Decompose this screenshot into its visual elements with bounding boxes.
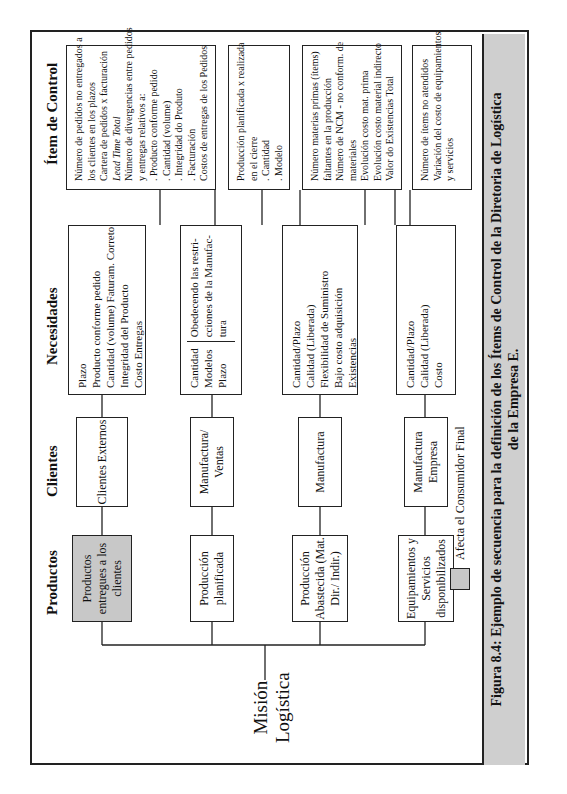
- need-item: Flexibilidad de Suministro: [317, 232, 331, 388]
- necesidades-box-2: Cantidad Modelos Plazo Obedecendo las re…: [180, 225, 242, 395]
- control-item: Producción planificada x realizada: [235, 52, 248, 181]
- need-item: Costo: [431, 232, 445, 388]
- producto-box-3: Producción Abastecida (Mat. Dir./ Indir.…: [292, 535, 348, 622]
- control-item: los clientes en los plazos: [86, 52, 99, 181]
- producto-box-2: Producción planificada: [190, 535, 234, 622]
- control-item: Evolución costo mat. prima: [359, 52, 372, 181]
- control-item: en el cierre: [248, 52, 261, 181]
- need-item: Existencias: [345, 232, 359, 388]
- control-item: y servicios: [444, 52, 457, 181]
- control-item: Evolución costo material indirecto: [372, 52, 385, 181]
- control-item: Número materias primas (ítems): [309, 52, 322, 181]
- need-item: Bajo costo adquisición: [331, 232, 345, 388]
- control-box-4: Número de ítems no atendidos Variación d…: [412, 45, 472, 190]
- need-item: Cantidad/Plazo: [289, 232, 303, 388]
- need-item: Calidad (Liberada): [303, 232, 317, 388]
- control-box-2: Producción planificada x realizada en el…: [228, 45, 290, 190]
- control-item: Costos de entregas de los Pedidos: [198, 52, 211, 181]
- producto-box-4: Equipamientos y Servicios disponibilizad…: [398, 535, 454, 622]
- producto-box-1: Productos entregues a los clientes: [72, 535, 132, 622]
- legend-label: Afecta el Consumidor Final: [453, 426, 468, 560]
- figure-page: Productos Clientes Necesidades Ítem de C…: [30, 32, 527, 765]
- control-item: y entregas relativos a:: [136, 52, 149, 181]
- control-item: . Cantidad (volume): [161, 52, 174, 181]
- control-item: . Facturación: [186, 52, 199, 181]
- legend-swatch: [450, 568, 470, 590]
- control-item: Número de divergencias entre pedidos: [123, 52, 136, 181]
- need-item: Integridad del Producto: [117, 232, 131, 388]
- control-item: . Cantidad: [260, 52, 273, 181]
- control-item: Número de pedidos no entregados a: [73, 52, 86, 181]
- cliente-box-3: Manufactura: [298, 417, 342, 507]
- necesidades-box-4: Cantidad/Plazo Calidad (Liberada) Costo: [396, 225, 456, 395]
- control-item: faltantes en la producción: [322, 52, 335, 181]
- legend: Afecta el Consumidor Final: [450, 426, 470, 590]
- control-item: Lead Time Total: [111, 52, 124, 181]
- control-box-1: Número de pedidos no entregados a los cl…: [66, 45, 216, 190]
- cliente-box-4: Manufactura Empresa: [404, 417, 448, 507]
- need-item: Costo Entregas: [131, 232, 145, 388]
- control-item: materiales: [347, 52, 360, 181]
- need-item: Cantidad: [187, 348, 201, 388]
- need-item: Calidad (Liberada): [417, 232, 431, 388]
- need-note: tura: [215, 235, 229, 337]
- need-note: cciones de la Manufac-: [201, 235, 215, 337]
- caption-line2: de la Empresa E.: [505, 34, 522, 765]
- need-note: Obedecendo las restri-: [187, 235, 201, 337]
- control-item: Variación del costo de equipamientos: [432, 52, 445, 181]
- need-item: Modelos: [201, 348, 215, 388]
- necesidades-box-3: Cantidad/Plazo Calidad (Liberada) Flexib…: [282, 225, 358, 395]
- control-item: Número de ítems no atendidos: [419, 52, 432, 181]
- control-item: Número de NCM - no conform. de: [334, 52, 347, 181]
- control-item: . Modelo: [273, 52, 286, 181]
- figure-caption: Figura 8.4: Ejemplo de secuencia para la…: [482, 34, 525, 765]
- cliente-box-2: Manufactura/ Ventas: [190, 417, 234, 507]
- control-item: Valor do Existencias Total: [384, 52, 397, 181]
- necesidades-box-1: Plazo Producto conforme pedido Cantidad …: [68, 225, 146, 395]
- need-item: Producto conforme pedido: [89, 232, 103, 388]
- control-item: . Integridad do Produto: [173, 52, 186, 181]
- need-item: Plazo: [75, 232, 89, 388]
- cliente-box-1: Clientes Externos: [76, 417, 128, 507]
- control-item: Cartera de pedidos x facturación: [98, 52, 111, 181]
- caption-line1: Figura 8.4: Ejemplo de secuencia para la…: [488, 34, 505, 765]
- control-item: . Producto conforme pedido: [148, 52, 161, 181]
- need-item: Cantidad/Plazo: [403, 232, 417, 388]
- need-item: Cantidad (volume) Faturam. Correto: [103, 232, 117, 388]
- need-item: Plazo: [215, 348, 229, 388]
- control-box-3: Número materias primas (ítems) faltantes…: [302, 45, 402, 190]
